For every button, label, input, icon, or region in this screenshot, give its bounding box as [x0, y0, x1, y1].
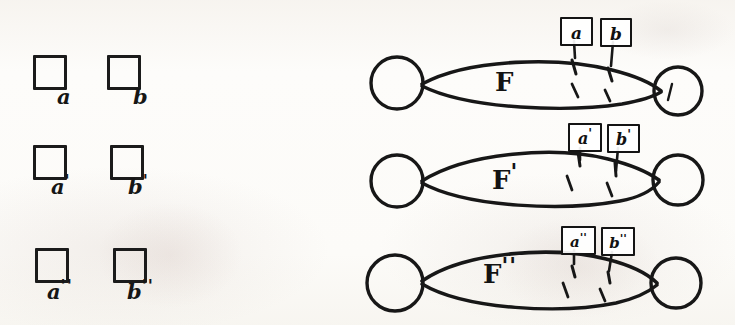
surface-label-F: F: [495, 60, 513, 97]
arc-tag-b-prime-text: b': [616, 129, 631, 148]
arc-tag-a-prime-text: a': [578, 128, 592, 147]
bigon-top-edge-row2: [422, 152, 659, 181]
arc-tag-a-text: a: [571, 21, 582, 42]
dashed-arc-b-prime-row2-lower: [607, 183, 612, 196]
arc-tag-a-double-prime: a'': [561, 226, 596, 255]
arc-tag-b-double-prime: b'': [601, 227, 635, 256]
dashed-arc-b-double-prime-row3-lower: [600, 289, 605, 301]
surface-label-F-prime: F': [492, 158, 518, 195]
arc-tag-b-prime: b': [607, 124, 640, 153]
arc-tag-a: a: [560, 17, 593, 46]
tick-right-circle-row1: [668, 84, 672, 100]
dashed-arc-a-double-prime-row3-upper: [572, 266, 575, 277]
bigon-bottom-edge-row2: [422, 182, 659, 206]
left-circle-row2: [371, 155, 423, 207]
left-circle-row1: [371, 57, 423, 109]
dashed-arc-b-double-prime-row3-upper: [608, 272, 610, 283]
bigon-ink-layer: [0, 0, 735, 325]
arc-tag-b: b: [600, 18, 632, 47]
dashed-arc-a-double-prime-row3-lower: [563, 283, 568, 297]
bigon-top-edge-row1: [422, 62, 661, 91]
dashed-arc-a-prime-row2-lower: [567, 176, 572, 190]
dashed-arc-a-row1-lower: [572, 84, 578, 97]
diagram-page: a b a' b' a'' b'': [0, 0, 735, 325]
arc-tag-a-double-prime-text: a'': [570, 232, 587, 250]
arc-tag-a-prime: a': [568, 123, 602, 152]
bigon-bottom-edge-row3: [422, 284, 657, 309]
surface-label-F-double-prime: F'': [483, 252, 517, 289]
bigon-bottom-edge-row1: [422, 86, 661, 108]
left-circle-row3: [367, 255, 423, 311]
dashed-arc-b-row1-lower: [605, 90, 610, 101]
bigon-top-edge-row3: [422, 252, 657, 283]
arc-tag-b-text: b: [610, 22, 622, 43]
arc-tag-b-double-prime-text: b'': [609, 233, 627, 251]
